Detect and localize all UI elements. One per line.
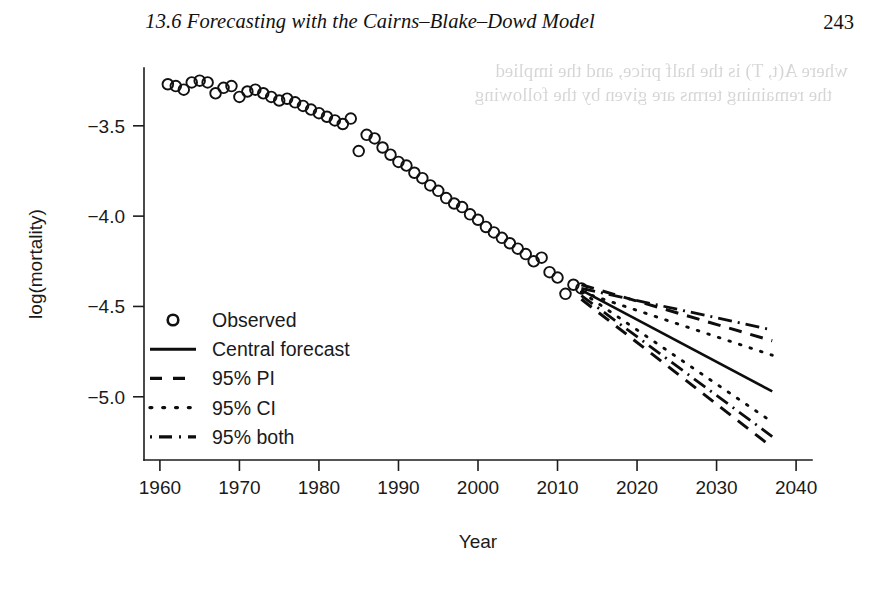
forecast-line-95-pi-lower [581,299,772,447]
x-tick-label-1980: 1980 [298,477,340,498]
y-tick-group: −3.5−4.0−4.5−5.0 [87,116,144,408]
mortality-forecast-figure: −3.5−4.0−4.5−5.0 19601970198019902000201… [0,46,872,599]
y-tick-label-1: −4.0 [87,206,125,227]
observed-point [345,113,356,124]
x-tick-group: 196019701980199020002010202020302040 [139,460,817,498]
book-page: 13.6 Forecasting with the Cairns–Blake–D… [0,0,872,599]
observed-point [560,289,571,300]
x-axis: 196019701980199020002010202020302040 [139,460,817,498]
data-series-layer [163,75,773,447]
x-tick-label-1970: 1970 [218,477,260,498]
chart-legend: ObservedCentral forecast95% PI95% CI95% … [150,309,350,448]
x-tick-label-2020: 2020 [616,477,658,498]
legend-label-95-pi: 95% PI [212,367,275,389]
observed-points [163,75,587,299]
legend-label-95-both: 95% both [212,426,294,448]
forecast-line-central-forecast [581,290,772,391]
observed-point [353,146,364,157]
forecast-line-95-both-lower [581,296,772,437]
x-tick-label-2040: 2040 [775,477,817,498]
legend-label-central-forecast: Central forecast [212,338,350,360]
x-tick-label-2000: 2000 [457,477,499,498]
page-number: 243 [823,11,854,34]
x-tick-label-1960: 1960 [139,477,181,498]
y-tick-label-2: −4.5 [87,296,125,317]
forecast-line-95-ci-upper [581,292,772,355]
x-tick-label-2030: 2030 [695,477,737,498]
legend-label-observed: Observed [212,309,297,331]
x-axis-title: Year [459,531,498,552]
y-axis-title: log(mortality) [25,209,46,319]
running-head: 13.6 Forecasting with the Cairns–Blake–D… [0,10,872,44]
x-tick-label-2010: 2010 [536,477,578,498]
chapter-section-title: 13.6 Forecasting with the Cairns–Blake–D… [0,10,740,33]
y-axis: −3.5−4.0−4.5−5.0 [87,68,144,460]
y-tick-label-3: −5.0 [87,387,125,408]
chart-canvas: −3.5−4.0−4.5−5.0 19601970198019902000201… [0,46,872,599]
legend-key-observed [168,315,179,326]
y-tick-label-0: −3.5 [87,116,125,137]
observed-point [552,272,563,283]
legend-label-95-ci: 95% CI [212,397,276,419]
x-tick-label-1990: 1990 [377,477,419,498]
